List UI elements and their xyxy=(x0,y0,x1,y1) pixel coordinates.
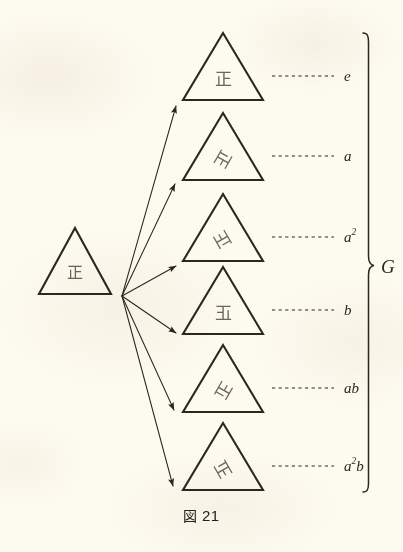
group-brace: G xyxy=(363,33,395,492)
source-triangle-outline xyxy=(39,228,111,294)
coset-label-ab: ab xyxy=(344,380,360,396)
coset-triangle-ab: 正 ab xyxy=(183,345,360,412)
coset-glyph-ab: 正 xyxy=(210,379,236,404)
coset-label-base: e xyxy=(344,68,351,84)
coset-glyph-b: 正 xyxy=(215,303,232,323)
arrow-to-coset-a2 xyxy=(122,266,176,296)
source-triangle: 正 xyxy=(39,228,111,294)
coset-triangle-outline xyxy=(183,267,263,334)
source-triangle-glyph: 正 xyxy=(67,263,83,282)
caption-number: 21 xyxy=(202,507,220,524)
coset-triangle-outline xyxy=(183,33,263,100)
group-brace-path xyxy=(363,33,374,492)
coset-label-base: b xyxy=(344,302,352,318)
coset-glyph-a2: 正 xyxy=(210,228,236,253)
coset-triangle-outline xyxy=(183,113,263,180)
mapping-arrow-group xyxy=(122,106,176,486)
diagram-canvas: 正 正 e 正 a 正 a2 xyxy=(0,0,403,552)
coset-triangle-b: 正 b xyxy=(183,267,352,334)
figure-21: 正 正 e 正 a 正 a2 xyxy=(0,0,403,552)
coset-label-b: b xyxy=(344,302,352,318)
coset-triangle-outline xyxy=(183,423,263,490)
coset-glyph-e: 正 xyxy=(215,69,232,89)
coset-triangle-a2: 正 a2 xyxy=(183,194,357,261)
coset-label-base: ab xyxy=(344,380,360,396)
coset-label-a: a xyxy=(344,148,352,164)
coset-label-e: e xyxy=(344,68,351,84)
coset-triangle-e: 正 e xyxy=(183,33,351,100)
coset-label-a2b: a2b xyxy=(344,456,364,474)
coset-label-base: a xyxy=(344,148,352,164)
coset-glyph-a2b: 正 xyxy=(210,457,236,482)
group-label-G: G xyxy=(381,256,395,277)
arrow-to-coset-a xyxy=(122,184,175,296)
coset-triangle-a2b: 正 a2b xyxy=(183,423,364,490)
coset-label-base: a xyxy=(344,229,352,245)
coset-triangle-a: 正 a xyxy=(183,113,352,180)
arrow-to-coset-e xyxy=(122,106,176,296)
coset-label-a2: a2 xyxy=(344,227,357,245)
caption-symbol: 図 xyxy=(183,508,198,524)
figure-caption: 図21 xyxy=(0,505,403,525)
coset-label-tail: b xyxy=(356,458,364,474)
coset-glyph-a: 正 xyxy=(210,147,236,172)
coset-label-base: a xyxy=(344,458,352,474)
coset-label-sup: 2 xyxy=(352,227,357,237)
